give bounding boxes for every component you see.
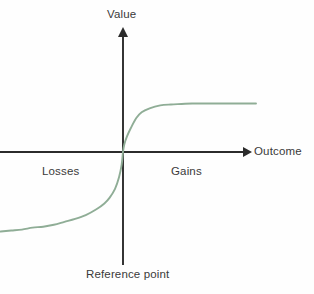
losses-region-label: Losses bbox=[42, 166, 79, 178]
reference-point-label: Reference point bbox=[86, 269, 169, 281]
gains-region-label: Gains bbox=[171, 166, 202, 178]
outcome-axis-label: Outcome bbox=[254, 146, 302, 158]
value-axis-arrowhead-icon bbox=[118, 27, 128, 37]
value-axis-label: Value bbox=[107, 9, 136, 21]
value-function-curve bbox=[0, 103, 256, 232]
outcome-axis bbox=[0, 147, 252, 157]
prospect-theory-value-function-figure: Value Outcome Losses Gains Reference poi… bbox=[0, 0, 314, 294]
outcome-axis-arrowhead-icon bbox=[243, 147, 252, 157]
